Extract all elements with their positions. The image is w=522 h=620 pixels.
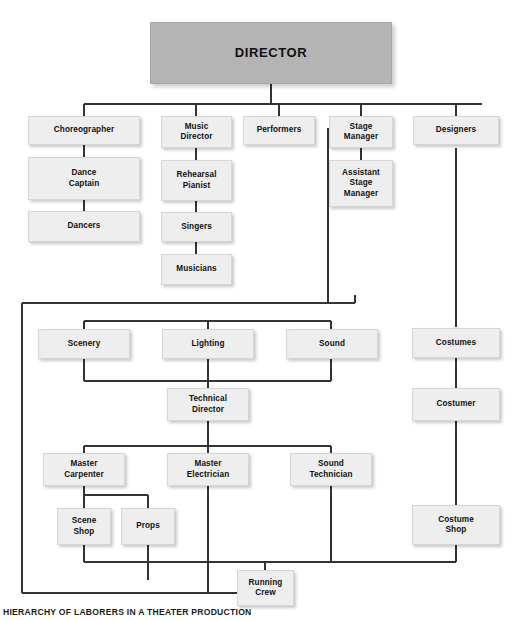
node-assistant-stage-manager[interactable]: AssistantStageManager	[329, 160, 393, 207]
node-lighting[interactable]: Lighting	[162, 329, 254, 359]
figure-caption: HIERARCHY OF LABORERS IN A THEATER PRODU…	[3, 607, 252, 617]
node-master-electrician[interactable]: MasterElectrician	[167, 453, 249, 486]
node-sound[interactable]: Sound	[286, 329, 378, 359]
node-dance-captain[interactable]: DanceCaptain	[28, 157, 140, 200]
node-designers[interactable]: Designers	[413, 116, 499, 145]
node-scenery[interactable]: Scenery	[38, 329, 130, 359]
node-choreographer[interactable]: Choreographer	[28, 116, 140, 145]
node-director[interactable]: DIRECTOR	[150, 22, 392, 84]
node-performers[interactable]: Performers	[243, 116, 315, 145]
node-costumes[interactable]: Costumes	[412, 328, 500, 358]
node-dancers[interactable]: Dancers	[28, 211, 140, 242]
org-chart-figure: DIRECTOR Choreographer MusicDirector Per…	[0, 0, 522, 620]
node-rehearsal-pianist[interactable]: RehearsalPianist	[161, 160, 232, 201]
node-singers[interactable]: Singers	[161, 212, 232, 242]
node-stage-manager[interactable]: StageManager	[329, 116, 393, 148]
node-master-carpenter[interactable]: MasterCarpenter	[43, 453, 125, 486]
node-running-crew[interactable]: RunningCrew	[237, 570, 294, 606]
node-costume-shop[interactable]: CostumeShop	[412, 505, 500, 545]
node-musicians[interactable]: Musicians	[161, 254, 232, 285]
node-sound-technician[interactable]: SoundTechnician	[290, 453, 372, 486]
node-costumer[interactable]: Costumer	[412, 388, 500, 421]
node-props[interactable]: Props	[121, 508, 175, 545]
node-music-director[interactable]: MusicDirector	[161, 116, 232, 148]
node-scene-shop[interactable]: SceneShop	[57, 508, 111, 545]
node-technical-director[interactable]: TechnicalDirector	[167, 388, 249, 421]
